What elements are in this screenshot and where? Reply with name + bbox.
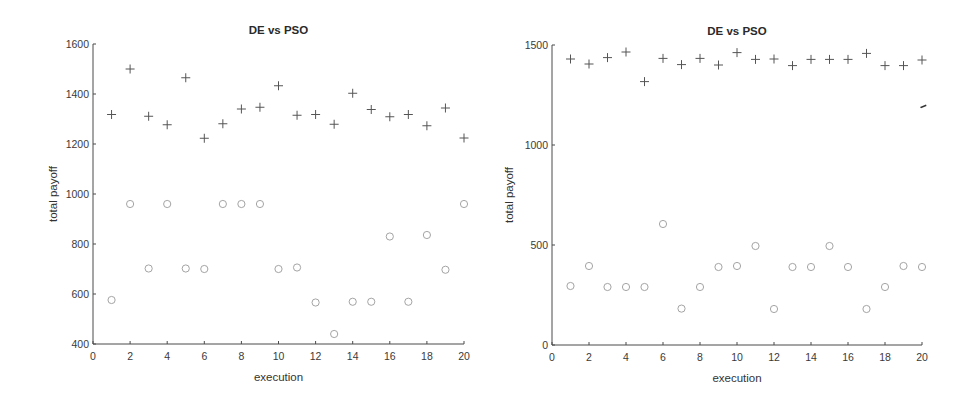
circle-marker [752, 242, 759, 249]
circle-marker [145, 265, 152, 272]
x-tick-label: 20 [916, 351, 928, 363]
circle-marker [275, 265, 282, 272]
x-tick-label: 2 [127, 350, 133, 362]
circle-marker [567, 282, 574, 289]
x-axis-label: execution [712, 372, 761, 384]
x-tick-label: 6 [660, 351, 666, 363]
plus-marker [163, 120, 172, 129]
plus-marker [367, 105, 376, 114]
x-tick-label: 4 [164, 350, 170, 362]
plus-marker [696, 54, 705, 63]
circle-marker [585, 262, 592, 269]
x-tick-label: 10 [731, 351, 743, 363]
plus-marker [107, 110, 116, 119]
circle-marker [826, 242, 833, 249]
circle-marker [622, 283, 629, 290]
y-tick-label: 1200 [66, 138, 90, 150]
y-ticks: 050010001500 [525, 39, 555, 351]
y-tick-label: 1000 [66, 188, 90, 200]
circle-marker [349, 298, 356, 305]
y-tick-label: 500 [530, 239, 548, 251]
circle-marker [678, 305, 685, 312]
x-tick-label: 20 [458, 350, 470, 362]
x-tick-label: 4 [623, 351, 629, 363]
circle-marker [844, 263, 851, 270]
circle-marker [331, 330, 338, 337]
x-tick-label: 12 [768, 351, 780, 363]
y-tick-label: 1000 [525, 139, 549, 151]
y-axis-label: total payoff [503, 166, 515, 223]
circle-marker [659, 220, 666, 227]
plus-marker [181, 73, 190, 82]
circle-marker [405, 298, 412, 305]
circle-marker [423, 231, 430, 238]
circle-marker [789, 263, 796, 270]
y-tick-label: 1400 [66, 88, 90, 100]
x-tick-label: 0 [90, 350, 96, 362]
plus-marker [348, 89, 357, 98]
y-tick-label: 0 [542, 339, 548, 351]
circle-marker [863, 305, 870, 312]
circle-marker [807, 263, 814, 270]
y-tick-label: 400 [71, 338, 89, 350]
circle-marker-series [108, 200, 468, 337]
plus-marker [255, 103, 264, 112]
plus-marker [622, 48, 631, 57]
circle-marker [715, 263, 722, 270]
y-axis-label: total payoff [47, 165, 59, 222]
circle-marker [696, 283, 703, 290]
plus-marker-series [566, 48, 927, 87]
stray-mark [920, 105, 927, 109]
circle-marker [256, 200, 263, 207]
circle-marker [900, 262, 907, 269]
plus-marker [733, 48, 742, 57]
circle-marker [733, 262, 740, 269]
y-tick-label: 1500 [525, 39, 549, 51]
plus-marker [640, 77, 649, 86]
circle-marker [127, 200, 134, 207]
plus-marker [862, 49, 871, 58]
circle-marker [770, 305, 777, 312]
plus-marker [385, 112, 394, 121]
chart-left: DE vs PSO execution total payoff 0246810… [47, 24, 470, 383]
plus-marker [677, 60, 686, 69]
y-tick-label: 1600 [66, 38, 90, 50]
circle-marker [604, 283, 611, 290]
plus-marker [274, 81, 283, 90]
x-tick-label: 2 [586, 351, 592, 363]
circle-marker [201, 265, 208, 272]
figure: DE vs PSO execution total payoff 0246810… [0, 0, 975, 405]
circle-marker [182, 265, 189, 272]
plus-marker [422, 121, 431, 130]
x-tick-label: 14 [347, 350, 359, 362]
x-tick-label: 8 [697, 351, 703, 363]
circle-marker [108, 296, 115, 303]
circle-marker [164, 200, 171, 207]
y-ticks: 4006008001000120014001600 [66, 38, 96, 350]
x-tick-label: 18 [879, 351, 891, 363]
plus-marker [788, 61, 797, 70]
plus-marker [603, 53, 612, 62]
circle-marker [641, 283, 648, 290]
circle-marker [368, 298, 375, 305]
x-tick-label: 0 [549, 351, 555, 363]
circle-marker [293, 264, 300, 271]
plus-marker [770, 55, 779, 64]
plus-marker [566, 55, 575, 64]
plus-marker [330, 120, 339, 129]
axis-lines [552, 45, 922, 345]
x-tick-label: 12 [310, 350, 322, 362]
x-tick-label: 10 [273, 350, 285, 362]
plus-marker [311, 110, 320, 119]
plus-marker [460, 134, 469, 143]
circle-marker [918, 263, 925, 270]
plus-marker [751, 55, 760, 64]
plus-marker [844, 55, 853, 64]
plus-marker [126, 65, 135, 74]
plus-marker [237, 105, 246, 114]
axes [552, 45, 922, 345]
circle-marker [238, 200, 245, 207]
y-tick-label: 800 [71, 238, 89, 250]
plus-marker [585, 60, 594, 69]
circle-marker [219, 200, 226, 207]
